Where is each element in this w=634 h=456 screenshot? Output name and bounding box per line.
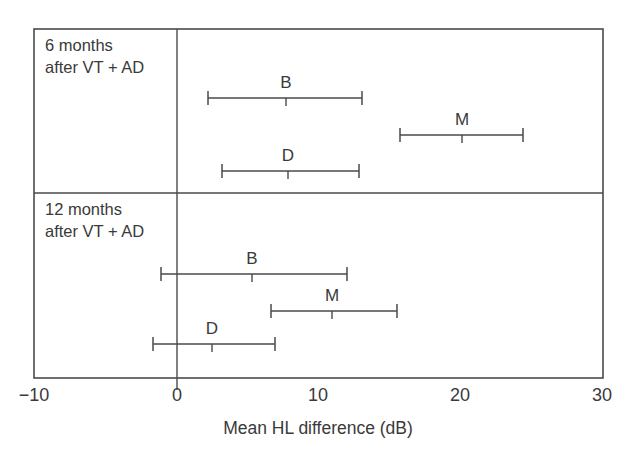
- errorbar-12m-d-label: D: [206, 319, 218, 338]
- chart-svg: 6 months after VT + AD B M D: [0, 0, 634, 456]
- panel-12-months-label-line2: after VT + AD: [45, 222, 144, 240]
- x-tick-label-20: 20: [450, 385, 470, 405]
- x-axis-title: Mean HL difference (dB): [223, 418, 413, 438]
- errorbar-6m-m-label: M: [455, 110, 469, 129]
- panel-12-months-label-line1: 12 months: [45, 200, 122, 218]
- errorbar-6m-m: M: [400, 110, 523, 143]
- panel-6-months-label-line2: after VT + AD: [45, 58, 144, 76]
- errorbar-6m-b: B: [208, 73, 362, 106]
- errorbar-12m-d: D: [153, 319, 275, 352]
- x-axis: −10 0 10 20 30 Mean HL difference (dB): [19, 385, 612, 438]
- panel-12-months: 12 months after VT + AD B M D: [45, 200, 397, 352]
- panel-6-months: 6 months after VT + AD B M D: [45, 36, 523, 179]
- errorbar-6m-b-label: B: [280, 73, 291, 92]
- errorbar-6m-d: D: [222, 146, 359, 179]
- x-tick-label-minus10: −10: [19, 385, 50, 405]
- x-tick-label-30: 30: [592, 385, 612, 405]
- errorbar-12m-m-label: M: [325, 286, 339, 305]
- errorbar-12m-b-label: B: [246, 249, 257, 268]
- panel-6-months-label-line1: 6 months: [45, 36, 113, 54]
- x-tick-label-0: 0: [172, 385, 182, 405]
- errorbar-12m-m: M: [271, 286, 397, 319]
- errorbar-12m-b: B: [161, 249, 347, 282]
- chart-figure: 6 months after VT + AD B M D: [0, 0, 634, 456]
- errorbar-6m-d-label: D: [282, 146, 294, 165]
- x-tick-label-10: 10: [308, 385, 328, 405]
